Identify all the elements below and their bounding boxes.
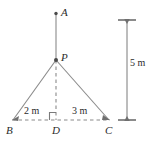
dimension-arrowhead-bottom (124, 116, 130, 121)
arrowhead-C (102, 115, 110, 120)
dimension-label-height: 5 m (130, 58, 145, 68)
point-marker-P (54, 58, 58, 62)
vertex-label-D: D (52, 125, 60, 136)
figure-canvas (0, 0, 152, 142)
dimension-arrowhead-top (124, 19, 130, 24)
geometry-figure: A P B D C 2 m 3 m 5 m (0, 0, 152, 142)
vertex-label-A: A (61, 7, 68, 18)
vertex-label-P: P (61, 52, 68, 63)
vertex-label-C: C (105, 125, 112, 136)
vertex-label-B: B (6, 125, 13, 136)
dimension-label-DC: 3 m (72, 106, 87, 116)
right-angle-marker-D (50, 113, 57, 121)
dimension-label-BD: 2 m (24, 106, 39, 116)
point-marker-A (54, 12, 57, 15)
